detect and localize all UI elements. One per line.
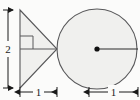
radius-dimension-label: 1 xyxy=(111,86,117,98)
circle-center-dot-icon xyxy=(94,46,99,51)
height-dimension-label: 2 xyxy=(5,43,11,55)
base-dimension-label: 1 xyxy=(36,86,42,98)
figure-canvas: 2 1 1 xyxy=(0,0,140,100)
geometry-figure: 2 1 1 xyxy=(0,0,140,100)
